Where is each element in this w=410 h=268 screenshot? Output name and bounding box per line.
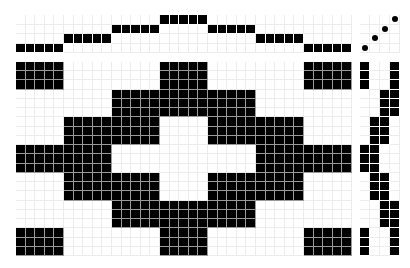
threading-cell[interactable]	[237, 44, 247, 54]
treadling-cell[interactable]	[370, 173, 380, 182]
threading-cell[interactable]	[314, 15, 324, 25]
threading-cell[interactable]	[294, 25, 304, 35]
treadling-cell[interactable]	[380, 201, 390, 210]
treadling-cell[interactable]	[360, 182, 370, 191]
treadling-cell[interactable]	[380, 191, 390, 200]
tieup-cell[interactable]	[370, 15, 380, 25]
threading-cell[interactable]	[160, 34, 170, 44]
threading-cell[interactable]	[179, 15, 189, 25]
treadling-cell[interactable]	[380, 71, 390, 80]
treadling-cell[interactable]	[360, 228, 370, 237]
threading-cell[interactable]	[150, 15, 160, 25]
treadling-cell[interactable]	[380, 228, 390, 237]
treadling-cell[interactable]	[380, 182, 390, 191]
treadling-cell[interactable]	[370, 71, 380, 80]
threading-cell[interactable]	[304, 25, 314, 35]
threading-cell[interactable]	[314, 44, 324, 54]
treadling-cell[interactable]	[360, 80, 370, 89]
treadling-cell[interactable]	[380, 247, 390, 256]
threading-cell[interactable]	[83, 34, 93, 44]
threading-cell[interactable]	[285, 44, 295, 54]
threading-cell[interactable]	[102, 34, 112, 44]
treadling-cell[interactable]	[360, 99, 370, 108]
treadling-cell[interactable]	[380, 210, 390, 219]
treadling-cell[interactable]	[370, 90, 380, 99]
threading-cell[interactable]	[102, 15, 112, 25]
threading-cell[interactable]	[227, 44, 237, 54]
threading-cell[interactable]	[170, 34, 180, 44]
treadling-cell[interactable]	[380, 238, 390, 247]
treadling-cell[interactable]	[390, 127, 400, 136]
treadling-cell[interactable]	[360, 127, 370, 136]
threading-cell[interactable]	[122, 15, 132, 25]
threading-cell[interactable]	[294, 44, 304, 54]
treadling-cell[interactable]	[390, 173, 400, 182]
threading-cell[interactable]	[16, 34, 26, 44]
threading-cell[interactable]	[131, 34, 141, 44]
threading-cell[interactable]	[35, 15, 45, 25]
threading-cell[interactable]	[246, 34, 256, 44]
tieup-cell[interactable]	[380, 15, 390, 25]
threading-cell[interactable]	[160, 25, 170, 35]
treadling-cell[interactable]	[380, 90, 390, 99]
threading-cell[interactable]	[333, 25, 343, 35]
treadling-cell[interactable]	[370, 201, 380, 210]
threading-cell[interactable]	[275, 15, 285, 25]
threading-cell[interactable]	[16, 44, 26, 54]
threading-cell[interactable]	[275, 44, 285, 54]
threading-cell[interactable]	[266, 25, 276, 35]
treadling-cell[interactable]	[380, 145, 390, 154]
threading-cell[interactable]	[275, 25, 285, 35]
threading-cell[interactable]	[35, 44, 45, 54]
threading-cell[interactable]	[275, 34, 285, 44]
treadling-cell[interactable]	[380, 127, 390, 136]
threading-cell[interactable]	[16, 15, 26, 25]
threading-cell[interactable]	[323, 25, 333, 35]
treadling-cell[interactable]	[390, 164, 400, 173]
tieup-cell[interactable]	[390, 44, 400, 54]
treadling-cell[interactable]	[390, 80, 400, 89]
threading-cell[interactable]	[179, 44, 189, 54]
threading-cell[interactable]	[333, 34, 343, 44]
tieup-dot-icon[interactable]	[370, 34, 380, 44]
threading-cell[interactable]	[285, 15, 295, 25]
threading-cell[interactable]	[64, 34, 74, 44]
treadling-cell[interactable]	[380, 164, 390, 173]
treadling-cell[interactable]	[390, 201, 400, 210]
treadling-cell[interactable]	[360, 117, 370, 126]
threading-cell[interactable]	[83, 25, 93, 35]
threading-cell[interactable]	[112, 34, 122, 44]
threading-cell[interactable]	[342, 15, 352, 25]
treadling-cell[interactable]	[380, 219, 390, 228]
threading-cell[interactable]	[16, 25, 26, 35]
threading-cell[interactable]	[141, 34, 151, 44]
treadling-cell[interactable]	[370, 154, 380, 163]
threading-cell[interactable]	[208, 15, 218, 25]
threading-cell[interactable]	[266, 44, 276, 54]
threading-cell[interactable]	[54, 44, 64, 54]
treadling-cell[interactable]	[390, 71, 400, 80]
threading-cell[interactable]	[74, 15, 84, 25]
threading-cell[interactable]	[227, 25, 237, 35]
treadling-cell[interactable]	[370, 136, 380, 145]
threading-cell[interactable]	[218, 44, 228, 54]
threading-cell[interactable]	[208, 44, 218, 54]
tieup-dot-icon[interactable]	[390, 15, 400, 25]
threading-cell[interactable]	[170, 25, 180, 35]
threading-cell[interactable]	[150, 44, 160, 54]
threading-cell[interactable]	[54, 15, 64, 25]
threading-grid[interactable]	[16, 15, 352, 53]
treadling-cell[interactable]	[380, 99, 390, 108]
threading-cell[interactable]	[179, 34, 189, 44]
treadling-cell[interactable]	[360, 71, 370, 80]
threading-cell[interactable]	[64, 15, 74, 25]
threading-cell[interactable]	[54, 34, 64, 44]
threading-cell[interactable]	[208, 25, 218, 35]
threading-cell[interactable]	[112, 44, 122, 54]
threading-cell[interactable]	[237, 15, 247, 25]
threading-cell[interactable]	[189, 34, 199, 44]
threading-cell[interactable]	[285, 25, 295, 35]
threading-cell[interactable]	[74, 34, 84, 44]
threading-cell[interactable]	[93, 15, 103, 25]
threading-cell[interactable]	[93, 34, 103, 44]
